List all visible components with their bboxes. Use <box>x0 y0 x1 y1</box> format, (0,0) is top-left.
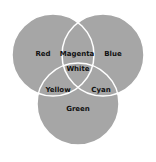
label-white: White <box>66 65 89 73</box>
label-blue: Blue <box>104 50 122 58</box>
circle-fills <box>12 14 144 145</box>
label-cyan: Cyan <box>91 86 110 94</box>
label-green: Green <box>66 105 90 113</box>
label-magenta: Magenta <box>60 50 95 58</box>
label-red: Red <box>35 50 50 58</box>
label-yellow: Yellow <box>44 86 71 94</box>
venn-diagram: Red Magenta Blue White Yellow Cyan Green <box>0 0 156 162</box>
